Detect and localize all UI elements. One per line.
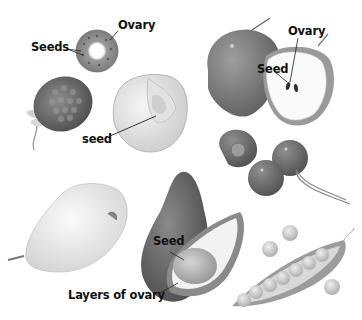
- pea-pod: [232, 225, 354, 307]
- label-orange-ovary: Ovary: [118, 20, 155, 32]
- label-apple-ovary: Ovary: [288, 26, 325, 38]
- peach: [110, 75, 187, 152]
- cherries: [219, 130, 350, 204]
- label-orange-seeds: Seeds: [31, 42, 69, 54]
- fruit-illustration: Seeds Ovary seed Ovary Seed Seed Layers …: [0, 0, 362, 320]
- label-peach-seed: seed: [82, 134, 112, 146]
- label-avocado-layers-of-ovary: Layers of ovary: [68, 290, 165, 302]
- label-apple-seed: Seed: [257, 64, 288, 76]
- orange-cross-section: [67, 30, 118, 72]
- label-avocado-seed: Seed: [153, 236, 184, 248]
- pear: [8, 184, 127, 273]
